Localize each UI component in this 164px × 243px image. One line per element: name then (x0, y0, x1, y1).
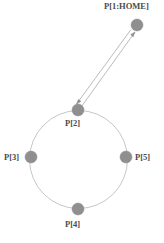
node-p3[interactable] (25, 151, 37, 163)
node-p5[interactable] (120, 151, 132, 163)
node-p2[interactable] (72, 104, 84, 116)
connector-home-to-p2 (77, 30, 132, 105)
node-home[interactable] (131, 19, 143, 31)
diagram-canvas (0, 0, 164, 243)
node-label-p5: P[5] (135, 152, 150, 162)
connector-p2-to-home (82, 32, 136, 107)
node-label-home: P[1:HOME] (104, 1, 149, 11)
path-diagram: P[1:HOME] P[2] P[3] P[5] P[4] (0, 0, 164, 243)
node-p4[interactable] (72, 203, 84, 215)
node-label-p4: P[4] (65, 219, 80, 229)
node-label-p2: P[2] (65, 118, 80, 128)
node-label-p3: P[3] (4, 152, 19, 162)
